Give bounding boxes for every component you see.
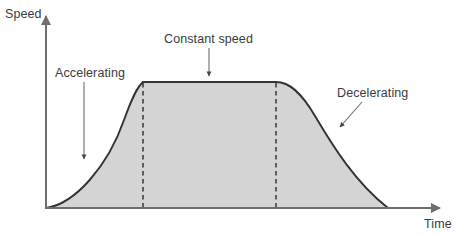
annotation-label-decelerating: Decelerating	[337, 86, 408, 100]
y-axis-label: Speed	[5, 7, 42, 21]
x-axis-label: Time	[424, 217, 452, 231]
speed-time-graph-figure: Speed Time Accelerating Constant speed D…	[0, 0, 455, 237]
annotation-label-constant-speed: Constant speed	[164, 32, 253, 46]
annotation-label-accelerating: Accelerating	[55, 66, 125, 80]
speed-curve-fill	[46, 82, 388, 208]
leader-line-decelerating	[340, 102, 362, 127]
